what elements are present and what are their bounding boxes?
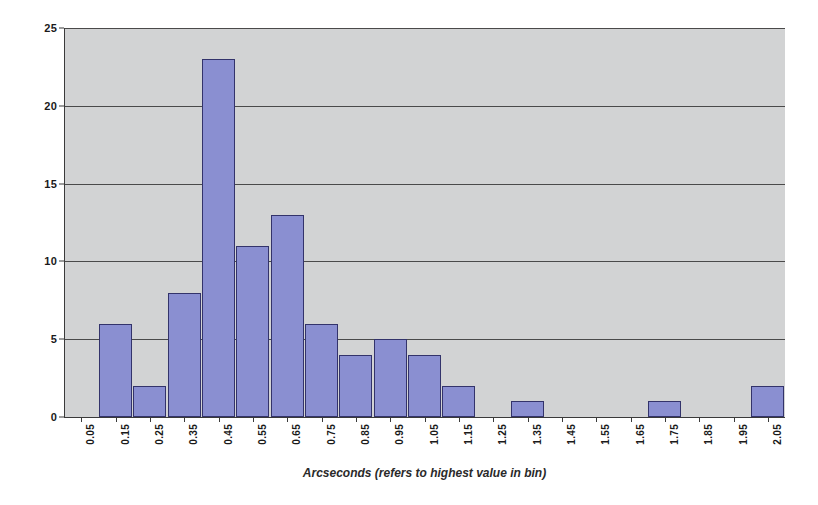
x-tick-mark	[287, 418, 288, 422]
x-tick-label: 1.85	[703, 424, 714, 445]
x-tick-mark	[596, 418, 597, 422]
x-tick-label: 0.65	[291, 424, 302, 445]
x-tick-label: 0.35	[188, 424, 199, 445]
x-tick-label: 0.85	[360, 424, 371, 445]
histogram-chart: PLEASE KEEP THIS PAGE BY YOUR DESK for y…	[0, 0, 818, 505]
bar	[271, 215, 304, 417]
y-tick-label: 5	[51, 333, 57, 345]
x-tick-label: 0.45	[223, 424, 234, 445]
x-tick-label: 1.65	[635, 424, 646, 445]
bar	[374, 339, 407, 417]
x-tick-label: 1.95	[738, 424, 749, 445]
bar	[751, 386, 784, 417]
x-tick-label: 1.75	[669, 424, 680, 445]
bar	[442, 386, 475, 417]
bar	[133, 386, 166, 417]
x-axis-title: Arcseconds (refers to highest value in b…	[64, 466, 785, 480]
x-tick-mark	[699, 418, 700, 422]
x-tick-label: 0.75	[326, 424, 337, 445]
bar	[408, 355, 441, 417]
x-tick-label: 1.55	[600, 424, 611, 445]
bar	[305, 324, 338, 417]
x-tick-mark	[665, 418, 666, 422]
x-tick-label: 1.35	[532, 424, 543, 445]
bar	[99, 324, 132, 417]
y-tick-mark	[59, 339, 64, 340]
y-axis-line	[64, 28, 65, 417]
x-tick-label: 0.25	[154, 424, 165, 445]
y-tick-mark	[59, 28, 64, 29]
bars-series	[64, 28, 785, 417]
x-tick-label: 0.55	[257, 424, 268, 445]
y-tick-mark	[59, 261, 64, 262]
bar	[511, 401, 544, 417]
x-tick-label: 2.05	[772, 424, 783, 445]
x-tick-mark	[425, 418, 426, 422]
x-tick-label: 0.15	[120, 424, 131, 445]
plot-area: 0510152025	[64, 28, 785, 417]
x-tick-mark	[184, 418, 185, 422]
x-tick-mark	[322, 418, 323, 422]
x-tick-mark	[459, 418, 460, 422]
x-tick-mark	[150, 418, 151, 422]
x-tick-label: 1.45	[566, 424, 577, 445]
bar	[648, 401, 681, 417]
x-tick-mark	[390, 418, 391, 422]
y-tick-mark	[59, 105, 64, 106]
x-tick-mark	[116, 418, 117, 422]
x-tick-mark	[528, 418, 529, 422]
x-tick-label: 1.15	[463, 424, 474, 445]
x-tick-label: 1.25	[497, 424, 508, 445]
bar	[168, 293, 201, 417]
y-tick-mark	[59, 183, 64, 184]
y-tick-label: 15	[44, 178, 57, 190]
x-tick-mark	[253, 418, 254, 422]
x-tick-label: 0.05	[85, 424, 96, 445]
bar	[339, 355, 372, 417]
x-tick-label: 0.95	[394, 424, 405, 445]
x-tick-mark	[768, 418, 769, 422]
bar	[236, 246, 269, 417]
x-tick-mark	[356, 418, 357, 422]
bar	[202, 59, 235, 417]
x-tick-mark	[493, 418, 494, 422]
x-tick-label: 1.05	[429, 424, 440, 445]
y-tick-label: 20	[44, 100, 57, 112]
x-tick-mark	[81, 418, 82, 422]
y-tick-label: 0	[51, 411, 57, 423]
x-tick-mark	[631, 418, 632, 422]
x-axis-ticks: 0.050.150.250.350.450.550.650.750.850.95…	[64, 418, 785, 464]
x-tick-mark	[734, 418, 735, 422]
y-tick-label: 25	[44, 22, 57, 34]
y-tick-label: 10	[44, 255, 57, 267]
x-tick-mark	[219, 418, 220, 422]
x-tick-mark	[562, 418, 563, 422]
